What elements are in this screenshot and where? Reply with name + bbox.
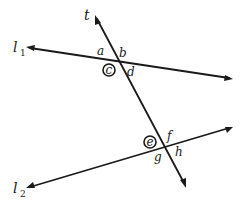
arrowhead-icon	[26, 45, 35, 51]
transversal-line-t	[95, 15, 186, 188]
transversal-diagram: t l 1 l 2 a b c d e f g h	[0, 0, 246, 207]
label-l2-subscript: 2	[20, 189, 26, 199]
angle-d-label: d	[127, 65, 135, 79]
angle-a-label: a	[97, 44, 104, 58]
angle-h-label: h	[175, 145, 183, 159]
arrowhead-icon	[224, 75, 233, 81]
label-l2: l	[13, 180, 17, 196]
label-t: t	[84, 7, 90, 23]
arrowhead-icon	[180, 178, 186, 188]
label-l1-subscript: 1	[20, 48, 26, 58]
angle-f-label: f	[166, 129, 174, 143]
angle-g-label: g	[154, 150, 162, 164]
arrowhead-icon	[26, 182, 35, 188]
arrowhead-icon	[225, 127, 233, 133]
angle-b-label: b	[119, 46, 127, 60]
angle-c-label: c	[106, 63, 113, 77]
label-l1: l	[13, 39, 17, 55]
angle-e-label: e	[147, 135, 154, 149]
line-l2	[26, 127, 233, 188]
